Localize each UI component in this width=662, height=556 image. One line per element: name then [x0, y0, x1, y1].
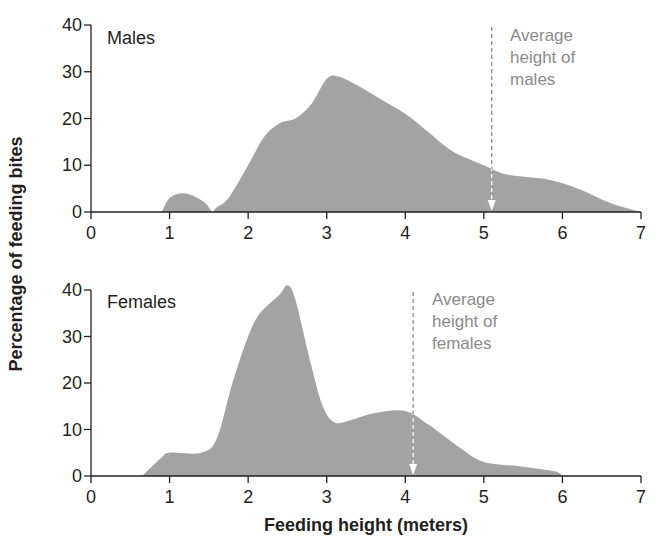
males-y-ticks: 010203040: [62, 15, 91, 222]
females-panel-label: Females: [107, 292, 176, 312]
males-area: [162, 75, 641, 212]
feeding-height-chart: 010203040 01234567 Males Average height …: [0, 0, 662, 556]
x-tick-label: 0: [86, 223, 96, 243]
x-tick-label: 7: [636, 487, 646, 507]
y-tick-label: 10: [62, 420, 82, 440]
x-tick-label: 7: [636, 223, 646, 243]
x-tick-label: 2: [243, 223, 253, 243]
males-average-annotation: Average height of males: [510, 26, 580, 89]
y-tick-label: 0: [72, 466, 82, 486]
x-axis-title: Feeding height (meters): [264, 515, 468, 535]
x-tick-label: 3: [322, 487, 332, 507]
males-panel: 010203040 01234567 Males Average height …: [62, 15, 646, 243]
x-tick-label: 6: [557, 487, 567, 507]
x-tick-label: 3: [322, 223, 332, 243]
y-tick-label: 30: [62, 62, 82, 82]
males-x-ticks: 01234567: [86, 212, 646, 243]
y-tick-label: 10: [62, 155, 82, 175]
y-tick-label: 40: [62, 15, 82, 35]
y-tick-label: 0: [72, 202, 82, 222]
males-panel-label: Males: [107, 28, 155, 48]
x-tick-label: 0: [86, 487, 96, 507]
x-tick-label: 2: [243, 487, 253, 507]
females-x-ticks: 01234567: [86, 476, 646, 507]
x-tick-label: 1: [165, 223, 175, 243]
females-y-ticks: 010203040: [62, 280, 91, 486]
y-tick-label: 20: [62, 373, 82, 393]
x-tick-label: 5: [479, 487, 489, 507]
x-tick-label: 6: [557, 223, 567, 243]
y-tick-label: 40: [62, 280, 82, 300]
x-tick-label: 4: [400, 487, 410, 507]
females-average-annotation: Average height of females: [432, 290, 502, 353]
y-tick-label: 30: [62, 327, 82, 347]
y-tick-label: 20: [62, 109, 82, 129]
females-panel: 010203040 01234567 Females Average heigh…: [62, 280, 646, 507]
x-tick-label: 4: [400, 223, 410, 243]
x-tick-label: 1: [165, 487, 175, 507]
y-axis-title: Percentage of feeding bites: [6, 136, 26, 371]
x-tick-label: 5: [479, 223, 489, 243]
